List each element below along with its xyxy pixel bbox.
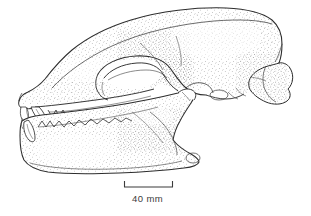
scale-bar-label: 40 mm bbox=[0, 193, 303, 204]
figure-root: 40 mm bbox=[0, 0, 311, 216]
mandible-stipple bbox=[0, 95, 311, 190]
scale-bar bbox=[124, 181, 173, 187]
mandible-group bbox=[0, 89, 311, 190]
skull-illustration bbox=[0, 0, 311, 216]
